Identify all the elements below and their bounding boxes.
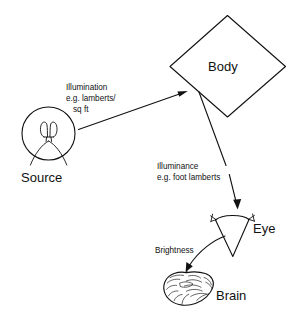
brain-gyrus-2 [167,279,180,283]
brain-gyrus-1 [170,275,184,278]
bulb-leg-left [30,141,48,165]
eye-cone-icon [216,215,250,220]
illuminance-label-line-2: e.g. foot lamberts [157,173,220,182]
eye-to-brain-edge: Brightness [155,236,225,272]
brightness-label: Brightness [155,246,194,255]
brain-label: Brain [216,288,246,303]
body-label: Body [208,59,238,74]
filament-loop-left [40,122,47,137]
illumination-label-line-3: sq ft [73,105,89,114]
brightness-curve [189,236,225,266]
source-to-body-edge: Illumination e.g. lamberts/ sq ft [66,83,188,130]
source-to-body-arrowhead [177,91,187,97]
body-node: Body [170,16,286,118]
diagram-canvas: Source Body Illumination e.g. lamberts/ … [0,0,300,327]
brain-gyrus-4 [169,291,178,296]
brain-gyrus-7 [189,275,201,278]
illumination-label-line-2: e.g. lamberts/ [66,94,116,103]
light-bulb-icon [22,107,75,160]
brain-node: Brain [164,266,247,305]
eye-label: Eye [253,221,275,236]
illumination-label-line-1: Illumination [66,83,108,92]
brain-gyrus-6 [182,294,189,304]
brain-gyrus-5 [174,294,182,300]
body-to-eye-line-upper [199,92,226,166]
filament-loop-right [50,122,57,137]
body-to-eye-line-lower [229,175,236,202]
brain-gyrus-3 [167,285,177,289]
source-node: Source [21,107,75,185]
body-to-eye-arrowhead [233,199,241,210]
eye-node: Eye [211,214,276,257]
bulb-leg-right [49,141,67,165]
brain-gyrus-10 [186,289,202,291]
body-to-eye-edge: Illuminance e.g. foot lamberts [157,92,241,210]
illuminance-label-line-1: Illuminance [157,162,199,171]
source-label: Source [21,170,62,185]
perception-chain-diagram: Source Body Illumination e.g. lamberts/ … [0,0,300,327]
